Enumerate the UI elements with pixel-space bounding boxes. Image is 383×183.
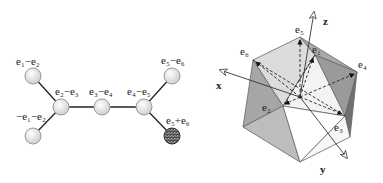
- dynkin-nodes: [25, 68, 180, 144]
- node-neg-e1-minus-e2: [25, 128, 41, 144]
- node-e5-minus-e6: [164, 68, 180, 84]
- label-e4-minus-e5: e₄−e₅: [127, 85, 151, 97]
- label-e5-minus-e6: e₅−e₆: [161, 54, 185, 66]
- label-e2-minus-e3: e₂−e₃: [55, 85, 79, 97]
- polytope-diagram: z x y e₅ e₆ e₁ e₄ e₂ e₃: [216, 12, 367, 175]
- dynkin-diagram: e₁−e₂ e₂−e₃ e₃−e₄ e₄−e₅ e₅−e₆ −e₁−e₂ e₅+…: [16, 54, 190, 144]
- label-e3-minus-e4: e₃−e₄: [89, 85, 113, 97]
- node-e3-minus-e4: [94, 99, 110, 115]
- vertex-label-e1: e₁: [312, 43, 321, 55]
- vertex-label-e5: e₅: [295, 23, 304, 35]
- node-e5-plus-e6: [164, 128, 180, 144]
- vertex-label-e6: e₆: [240, 45, 249, 57]
- vertex-label-e2: e₂: [262, 101, 271, 113]
- label-neg-e1-minus-e2: −e₁−e₂: [16, 110, 46, 122]
- label-e1-minus-e2: e₁−e₂: [16, 55, 40, 67]
- node-e1-minus-e2: [25, 68, 41, 84]
- axis-label-z: z: [323, 15, 328, 27]
- axis-label-x: x: [216, 79, 222, 91]
- label-e5-plus-e6: e₅+e₆: [166, 114, 190, 126]
- axis-label-y: y: [320, 163, 326, 175]
- vertex-label-e4: e₄: [358, 58, 367, 70]
- node-e2-minus-e3: [53, 99, 69, 115]
- node-e4-minus-e5: [136, 99, 152, 115]
- figure-canvas: e₁−e₂ e₂−e₃ e₃−e₄ e₄−e₅ e₅−e₆ −e₁−e₂ e₅+…: [0, 0, 383, 183]
- vertex-label-e3: e₃: [334, 121, 343, 133]
